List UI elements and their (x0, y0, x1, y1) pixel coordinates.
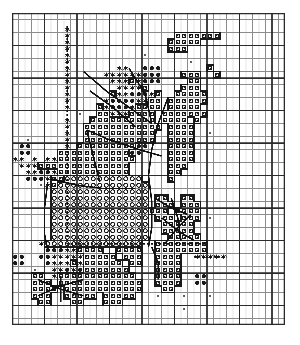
pattern-grid (12, 13, 288, 331)
cross-stitch-chart (0, 0, 300, 345)
pattern-grid-canvas (12, 13, 285, 325)
